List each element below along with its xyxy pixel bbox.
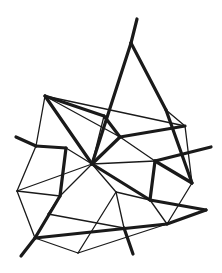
thick-edge-5 bbox=[36, 146, 66, 148]
wireframe-canvas bbox=[0, 0, 222, 273]
line-drawing-figure bbox=[0, 0, 222, 273]
